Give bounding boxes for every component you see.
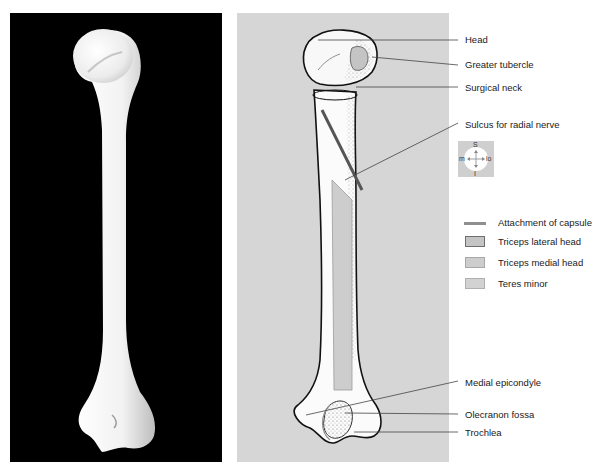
legend-triceps-lateral-head: Triceps lateral head: [498, 236, 581, 247]
label-greater-tubercle: Greater tubercle: [465, 59, 534, 70]
compass-inferior: I: [474, 170, 476, 178]
label-sulcus-radial-nerve: Sulcus for radial nerve: [465, 119, 560, 130]
label-head: Head: [465, 34, 488, 45]
compass-superior: S: [473, 141, 478, 149]
legend-triceps-medial-swatch-icon: [465, 257, 485, 268]
orientation-compass: S I m lo: [458, 141, 494, 177]
legend-teres-minor-swatch-icon: [465, 278, 485, 289]
legend-attachment-capsule: Attachment of capsule: [498, 217, 592, 228]
label-medial-epicondyle: Medial epicondyle: [465, 377, 541, 388]
legend-teres-minor: Teres minor: [498, 278, 548, 289]
label-olecranon-fossa: Olecranon fossa: [465, 409, 534, 420]
label-trochlea: Trochlea: [465, 427, 502, 438]
humerus-photo: [73, 29, 155, 452]
compass-lateral: lo: [486, 155, 491, 163]
legend-triceps-lateral-swatch-icon: [465, 236, 485, 247]
label-surgical-neck: Surgical neck: [465, 82, 522, 93]
legend-triceps-medial-head: Triceps medial head: [498, 257, 583, 268]
humerus-diagram: [294, 30, 381, 443]
compass-medial: m: [459, 155, 465, 163]
legend-capsule-line-icon: [464, 222, 486, 225]
